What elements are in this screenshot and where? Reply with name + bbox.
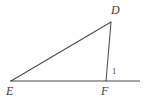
figure-canvas — [0, 0, 145, 104]
vertex-label-e: E — [6, 85, 13, 97]
segment-df — [106, 22, 111, 81]
vertex-label-f: F — [101, 85, 108, 97]
angle-label-1: 1 — [112, 67, 117, 76]
geometry-figure: D E F 1 — [0, 0, 145, 104]
vertex-label-d: D — [111, 4, 120, 16]
segment-ed — [11, 22, 111, 81]
